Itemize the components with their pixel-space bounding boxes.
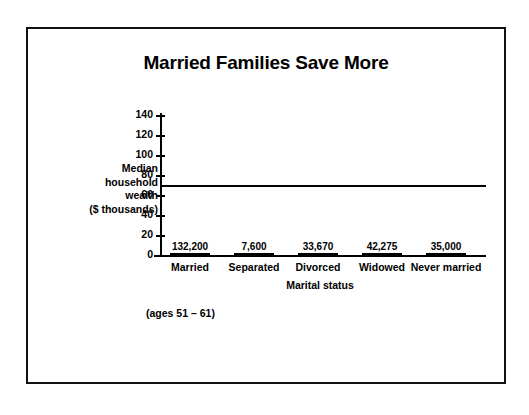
- bar-value-married: 132,200: [172, 241, 208, 252]
- bar-widowed[interactable]: 42,275: [362, 253, 402, 255]
- bar-married[interactable]: 132,200: [170, 253, 210, 255]
- category-label-married: Married: [171, 261, 209, 273]
- bar-value-widowed: 42,275: [367, 241, 398, 252]
- category-label-separated: Separated: [229, 261, 280, 273]
- bar-value-never-married: 35,000: [431, 241, 462, 252]
- y-tick-label-80: 80: [141, 168, 153, 181]
- x-axis-title: Marital status: [160, 279, 480, 291]
- bar-value-divorced: 33,670: [303, 241, 334, 252]
- bar-value-separated: 7,600: [241, 241, 266, 252]
- y-tick-label-20: 20: [141, 228, 153, 241]
- y-tick-label-40: 40: [141, 208, 153, 221]
- plot-area: 0 20 40 60 80 100 120 140: [160, 115, 480, 255]
- y-tick-label-0: 0: [147, 248, 153, 261]
- chart-footnote: (ages 51 – 61): [146, 307, 215, 319]
- chart-title: Married Families Save More: [28, 52, 504, 74]
- x-axis-line: [154, 255, 486, 257]
- y-tick-label-140: 140: [135, 108, 153, 121]
- category-label-never-married: Never married: [411, 261, 482, 273]
- category-label-widowed: Widowed: [359, 261, 405, 273]
- bar-divorced[interactable]: 33,670: [298, 253, 338, 255]
- y-tick-label-120: 120: [135, 128, 153, 141]
- slide-frame: Married Families Save More Median househ…: [26, 27, 506, 384]
- category-label-divorced: Divorced: [296, 261, 341, 273]
- bar-separated[interactable]: 7,600: [234, 253, 274, 255]
- y-tick-label-60: 60: [141, 188, 153, 201]
- y-tick-label-100: 100: [135, 148, 153, 161]
- bar-never-married[interactable]: 35,000: [426, 253, 466, 255]
- reference-line: [160, 185, 486, 187]
